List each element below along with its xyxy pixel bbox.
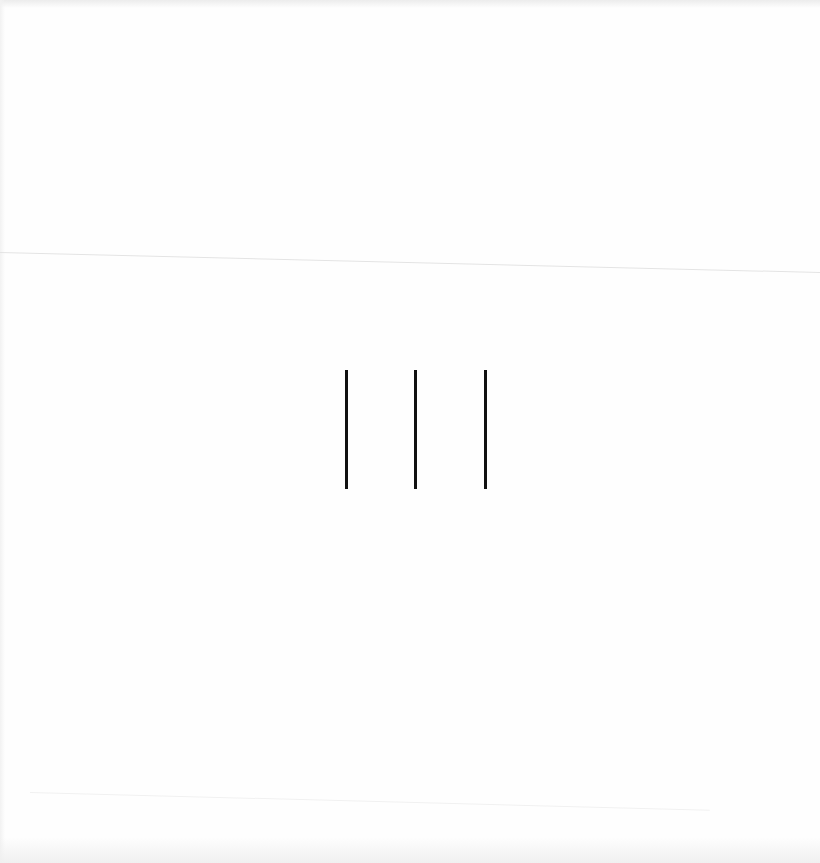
vertical-stroke-1 [345,370,348,489]
paper-bottom-edge-shadow [0,837,820,863]
paper-sheet [0,0,820,863]
vertical-stroke-2 [414,370,417,489]
paper-fold-line [0,252,820,273]
paper-left-edge-shadow [0,0,5,863]
paper-top-edge-shadow [0,0,820,8]
paper-faint-crease [30,792,710,811]
vertical-stroke-3 [484,370,487,489]
